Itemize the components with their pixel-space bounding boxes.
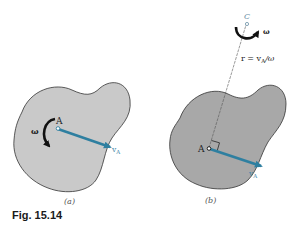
panel-a-label: (a): [64, 197, 75, 206]
omega-b-label: ω: [263, 27, 270, 36]
omega-a-label: ω: [31, 126, 39, 136]
point-a-label: A: [55, 116, 63, 126]
figure-caption: Fig. 15.14: [12, 209, 62, 221]
radius-equation: r = vA/ω: [241, 54, 275, 64]
point-a-b-label: A: [197, 144, 205, 154]
omega-arc-b-icon: [236, 27, 258, 38]
rigid-body-b: [170, 85, 286, 189]
rigid-body-a: [14, 83, 130, 192]
panel-b: A vA C ω r = vA/ω (b): [170, 12, 286, 205]
panel-a: A ω vA (a): [14, 83, 130, 206]
center-c-label: C: [244, 12, 250, 21]
panel-b-label: (b): [205, 196, 216, 205]
center-c-marker: [245, 22, 248, 25]
figure-canvas: A ω vA (a) A vA C ω r = vA/ω (b): [0, 0, 298, 231]
velocity-b-label: vA: [248, 169, 258, 179]
point-a-b-marker: [207, 147, 211, 151]
point-a-marker: [56, 127, 60, 131]
velocity-a-label: vA: [111, 145, 121, 155]
